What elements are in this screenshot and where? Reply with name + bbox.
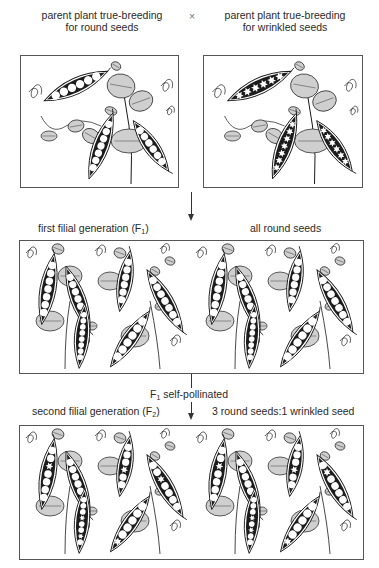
f2-label: second filial generation (F2) (32, 405, 160, 421)
self-pollination-line (191, 374, 192, 388)
parent-round-label-line2: for round seeds (22, 21, 182, 33)
wrinkled-pea-plant-illustration (204, 56, 362, 187)
f1-panel (19, 240, 364, 374)
f1-pea-plants-illustration (20, 241, 363, 373)
cross-symbol: × (186, 10, 198, 22)
f2-pea-plants-illustration (20, 426, 363, 559)
parent-wrinkled-label: parent plant true-breeding for wrinkled … (205, 9, 365, 33)
f2-result-label: 3 round seeds:1 wrinkled seed (212, 405, 354, 417)
cross-arrow-line (191, 192, 192, 216)
self-pollination-arrow-head (188, 413, 194, 420)
parent-wrinkled-label-line2: for wrinkled seeds (205, 21, 365, 33)
cross-arrow-head (188, 214, 194, 221)
round-pea-plant-illustration (21, 56, 178, 187)
f1-label: first filial generation (F1) (38, 222, 149, 238)
parent-round-panel (20, 55, 179, 188)
f2-panel (19, 425, 364, 560)
parent-round-label: parent plant true-breeding for round see… (22, 9, 182, 33)
self-pollinated-label: F1 self-pollinated (150, 388, 228, 404)
parent-wrinkled-label-line1: parent plant true-breeding (205, 9, 365, 21)
f1-result-label: all round seeds (250, 222, 321, 234)
parent-round-label-line1: parent plant true-breeding (22, 9, 182, 21)
parent-wrinkled-panel (203, 55, 363, 188)
